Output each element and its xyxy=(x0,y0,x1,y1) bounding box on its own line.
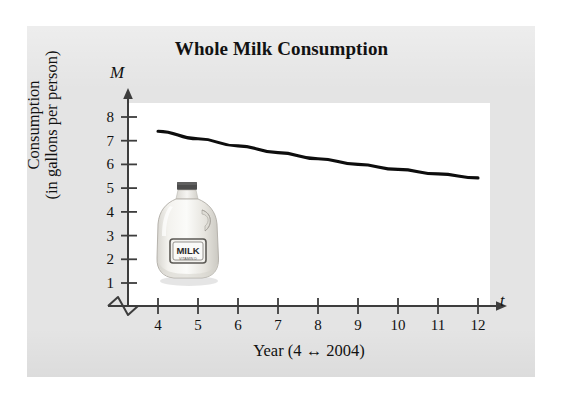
y-tick-label-6: 6 xyxy=(92,156,114,173)
y-tick-label-7: 7 xyxy=(92,133,114,150)
x-tick-label-10: 10 xyxy=(383,317,413,334)
y-tick-label-8: 8 xyxy=(92,109,114,126)
x-tick-label-5: 5 xyxy=(183,317,213,334)
x-axis-caption: Year (4 ↔ 2004) xyxy=(128,341,490,361)
y-tick-label-2: 2 xyxy=(92,251,114,268)
x-tick-label-12: 12 xyxy=(463,317,493,334)
x-tick-label-7: 7 xyxy=(263,317,293,334)
x-tick-label-8: 8 xyxy=(303,317,333,334)
y-tick-label-5: 5 xyxy=(92,180,114,197)
x-tick-label-4: 4 xyxy=(143,317,173,334)
y-axis-symbol: M xyxy=(110,63,124,83)
x-tick-label-9: 9 xyxy=(343,317,373,334)
data-series-line xyxy=(158,131,478,178)
y-tick-label-4: 4 xyxy=(92,204,114,221)
x-axis-symbol: t xyxy=(500,292,504,310)
x-tick-label-11: 11 xyxy=(423,317,453,334)
y-tick-label-3: 3 xyxy=(92,228,114,245)
x-tick-label-6: 6 xyxy=(223,317,253,334)
chart-figure: Whole Milk Consumption xyxy=(0,0,563,403)
y-tick-label-1: 1 xyxy=(92,275,114,292)
